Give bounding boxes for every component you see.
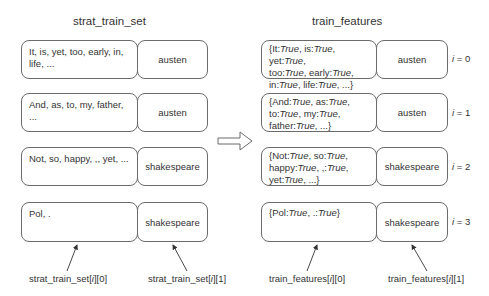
right-pointer-label-0: train_features[i][0] (269, 273, 345, 284)
pointer-arrow-right-0 (307, 245, 317, 271)
transform-arrow-icon (218, 132, 252, 150)
arrows-layer (0, 0, 489, 296)
pointer-arrow-left-1 (173, 245, 187, 271)
pointer-arrow-left-0 (67, 245, 77, 271)
pointer-arrow-right-1 (412, 245, 427, 271)
left-pointer-label-0: strat_train_set[i][0] (29, 273, 107, 284)
right-pointer-label-1: train_features[i][1] (388, 273, 464, 284)
left-pointer-label-1: strat_train_set[i][1] (148, 273, 226, 284)
